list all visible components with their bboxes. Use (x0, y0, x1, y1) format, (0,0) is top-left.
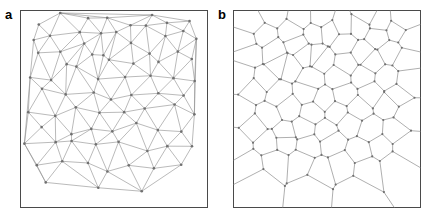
figure-container: a b (0, 0, 433, 220)
panel-label-a: a (5, 8, 12, 21)
panel-delaunay-triangulation (20, 10, 208, 208)
delaunay-triangulation-plot (20, 10, 208, 208)
panel-voronoi-tessellation (233, 10, 421, 208)
voronoi-tessellation-plot (233, 10, 421, 208)
panel-label-b: b (218, 8, 226, 21)
